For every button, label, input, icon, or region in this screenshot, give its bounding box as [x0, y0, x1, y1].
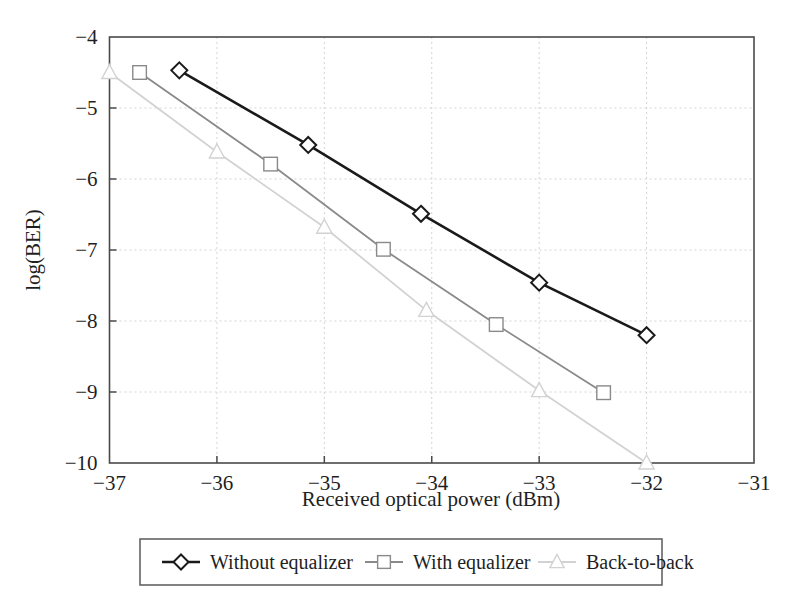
- chart-svg: −37−36−35−34−33−32−31 −4−5−6−7−8−9−10 Re…: [0, 0, 802, 612]
- y-tick-label: −4: [75, 25, 98, 49]
- x-tick-label: −31: [738, 471, 771, 495]
- y-axis-title: log(BER): [21, 209, 45, 291]
- marker-square: [133, 66, 147, 80]
- y-tick-label: −10: [65, 451, 98, 475]
- legend-label: Back-to-back: [586, 551, 694, 573]
- legend-entries: Without equalizerWith equalizerBack-to-b…: [162, 551, 694, 574]
- x-axis-title: Received optical power (dBm): [302, 487, 560, 511]
- y-tick-label: −5: [75, 96, 97, 120]
- chart-figure: −37−36−35−34−33−32−31 −4−5−6−7−8−9−10 Re…: [0, 0, 802, 612]
- y-tick-label: −6: [75, 167, 97, 191]
- y-tick-label: −7: [75, 238, 97, 262]
- marker-square: [597, 386, 611, 400]
- y-tick-label: −8: [75, 309, 97, 333]
- marker-square: [378, 556, 391, 569]
- x-tick-label: −32: [630, 471, 663, 495]
- x-tick-label: −36: [200, 471, 233, 495]
- figure-background: [0, 0, 802, 612]
- x-tick-label: −37: [93, 471, 126, 495]
- marker-square: [489, 318, 503, 332]
- legend-label: Without equalizer: [210, 551, 353, 574]
- marker-square: [264, 157, 278, 171]
- legend-label: With equalizer: [413, 551, 531, 574]
- marker-square: [377, 242, 391, 256]
- y-tick-label: −9: [75, 380, 97, 404]
